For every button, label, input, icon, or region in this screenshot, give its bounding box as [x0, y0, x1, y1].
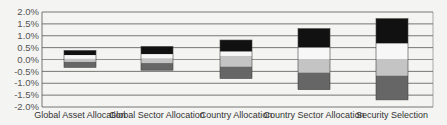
bar-global-sector-allocation: [141, 46, 173, 70]
x-category-label: Security Selection: [356, 110, 428, 120]
y-tick-label: -1.5%: [14, 89, 39, 100]
bar-segment: [64, 62, 96, 67]
bar-segment: [298, 48, 330, 60]
x-axis-categories: Global Asset AllocationGlobal Sector All…: [34, 110, 428, 120]
bar-segment: [376, 60, 408, 76]
bar-segment: [64, 55, 96, 59]
y-tick-label: -0.5%: [14, 66, 39, 77]
bar-segment: [64, 50, 96, 55]
y-tick-label: 1.0%: [17, 30, 39, 41]
bar-security-selection: [376, 19, 408, 100]
bar-segment: [298, 29, 330, 48]
bar-segment: [376, 44, 408, 60]
bar-country-allocation: [220, 40, 252, 78]
bar-segment: [141, 58, 173, 63]
bar-segment: [64, 59, 96, 62]
y-tick-label: 0.5%: [17, 42, 39, 53]
bar-segment: [141, 63, 173, 70]
bar-segment: [376, 76, 408, 100]
x-category-label: Country Allocation: [200, 110, 273, 120]
bar-global-asset-allocation: [64, 50, 96, 67]
y-tick-label: 2.0%: [17, 6, 39, 17]
bar-segment: [220, 40, 252, 52]
y-tick-label: 0.0%: [17, 54, 39, 65]
x-category-label: Global Sector Allocation: [109, 110, 205, 120]
y-tick-label: -1.0%: [14, 77, 39, 88]
x-category-label: Country Sector Allocation: [263, 110, 364, 120]
bar-segment: [376, 19, 408, 44]
bar-segment: [220, 56, 252, 67]
y-tick-label: 1.5%: [17, 18, 39, 29]
bar-segment: [220, 67, 252, 79]
bar-segment: [298, 60, 330, 73]
stacked-bar-chart: 2.0%1.5%1.0%0.5%0.0%-0.5%-1.0%-1.5%-2.0%…: [0, 0, 447, 125]
bar-segment: [298, 73, 330, 90]
bar-segment: [141, 46, 173, 54]
bar-segment: [141, 54, 173, 58]
y-axis-ticks: 2.0%1.5%1.0%0.5%0.0%-0.5%-1.0%-1.5%-2.0%: [14, 6, 39, 112]
bar-country-sector-allocation: [298, 29, 330, 90]
bar-segment: [220, 52, 252, 56]
